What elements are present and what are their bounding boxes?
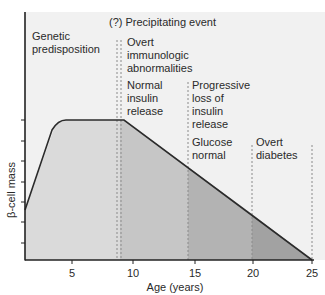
svg-text:Normal: Normal — [127, 79, 162, 91]
svg-text:loss of: loss of — [192, 92, 225, 104]
svg-text:abnormalities: abnormalities — [127, 62, 193, 74]
svg-text:insulin: insulin — [192, 105, 223, 117]
svg-text:normal: normal — [192, 149, 226, 161]
x-tick-10: 10 — [127, 267, 139, 279]
x-tick-20: 20 — [247, 267, 259, 279]
svg-text:release: release — [127, 105, 163, 117]
x-tick-5: 5 — [69, 267, 75, 279]
svg-text:insulin: insulin — [127, 92, 158, 104]
svg-text:diabetes: diabetes — [256, 149, 298, 161]
svg-text:release: release — [192, 118, 228, 130]
precipitating-event-label: (?) Precipitating event — [109, 16, 216, 28]
svg-text:Overt: Overt — [256, 136, 283, 148]
svg-text:immunologic: immunologic — [127, 49, 189, 61]
y-axis-label: β-cell mass — [5, 162, 17, 218]
svg-text:Genetic: Genetic — [32, 30, 70, 42]
x-tick-15: 15 — [189, 267, 201, 279]
svg-text:Overt: Overt — [127, 36, 154, 48]
svg-text:Progressive: Progressive — [192, 79, 250, 91]
x-tick-25: 25 — [306, 267, 318, 279]
svg-text:Glucose: Glucose — [192, 136, 232, 148]
x-axis-label: Age (years) — [147, 281, 204, 293]
x-tick-labels: 5 10 15 20 25 — [69, 267, 318, 279]
svg-text:predisposition: predisposition — [32, 43, 100, 55]
normal-insulin-release-label: Normal insulin release — [127, 79, 163, 117]
beta-cell-mass-diagram: 5 10 15 20 25 Age (years) β-cell mass (?… — [0, 0, 325, 295]
